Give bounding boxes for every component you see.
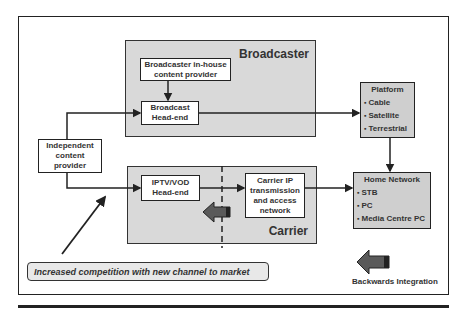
home-network-node: Home Network STB PC Media Centre PC — [353, 172, 431, 229]
backwards-integration-label: Backwards Integration — [352, 277, 452, 286]
legend-backwards-arrow — [357, 250, 389, 274]
node-label: content provider — [154, 70, 217, 79]
node-label: network — [260, 206, 291, 215]
node-label: provider — [54, 161, 86, 170]
node-label: and access — [253, 196, 296, 205]
iptv-headend-node: IPTV/VODHead-end — [141, 175, 200, 201]
home-network-title: Home Network — [357, 175, 427, 184]
node-label: Broadcast — [150, 103, 189, 112]
carrier-ip-node: Carrier IPtransmissionand accessnetwork — [245, 173, 305, 218]
node-label: Independent — [46, 141, 94, 150]
competition-banner: Increased competition with new channel t… — [27, 262, 269, 281]
broadcast-headend-node: BroadcastHead-end — [141, 101, 199, 125]
node-label: Head-end — [152, 113, 188, 122]
node-label: IPTV/VOD — [152, 178, 189, 187]
home-network-item: STB — [357, 188, 427, 197]
home-network-item: PC — [357, 201, 427, 210]
broadcaster-inhouse-node: Broadcaster in-housecontent provider — [140, 58, 231, 81]
node-label: Broadcaster in-house — [144, 60, 226, 69]
node-label: Head-end — [152, 188, 188, 197]
platform-title: Platform — [364, 85, 411, 94]
platform-item: Terrestrial — [364, 124, 411, 133]
carrier-backwards-arrow — [203, 202, 230, 222]
platform-item: Satellite — [364, 111, 411, 120]
platform-item: Cable — [364, 98, 411, 107]
node-label: Carrier IP — [257, 176, 293, 185]
independent-provider-node: Independentcontentprovider — [38, 139, 102, 173]
home-network-item: Media Centre PC — [357, 214, 427, 223]
platform-node: Platform Cable Satellite Terrestrial — [360, 82, 415, 138]
node-label: content — [56, 151, 85, 160]
node-label: transmission — [250, 186, 300, 195]
